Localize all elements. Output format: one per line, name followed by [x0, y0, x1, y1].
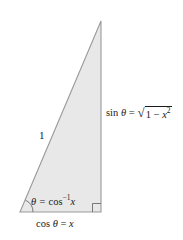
triangle-graphic [0, 0, 183, 240]
right-triangle-shape [20, 21, 101, 212]
sin-equals-sign: = [126, 107, 135, 118]
angle-label: θ = cos−1x [31, 194, 75, 207]
angle-function-name: cos [49, 196, 63, 207]
adjacent-side-label: cos θ = x [36, 219, 74, 230]
trigonometry-figure: 1 θ = cos−1x cos θ = x sin θ = √ 1 − x2 [0, 0, 183, 240]
opposite-side-label: sin θ = √ 1 − x2 [106, 105, 172, 120]
hypotenuse-value: 1 [39, 129, 45, 141]
radicand-one-minus: 1 − [146, 108, 162, 119]
base-function-name: cos [36, 218, 53, 229]
sin-function-name: sin [106, 107, 121, 118]
hypotenuse-label: 1 [39, 130, 45, 141]
radicand-exponent: 2 [167, 106, 171, 115]
base-equals-sign: = [58, 218, 69, 229]
angle-argument: x [70, 196, 75, 207]
radicand: 1 − x2 [145, 106, 172, 120]
square-root-expression: √ 1 − x2 [138, 105, 172, 120]
radical-icon: √ [138, 106, 145, 121]
base-value: x [69, 218, 74, 229]
angle-theta-prefix: θ = [31, 196, 49, 207]
